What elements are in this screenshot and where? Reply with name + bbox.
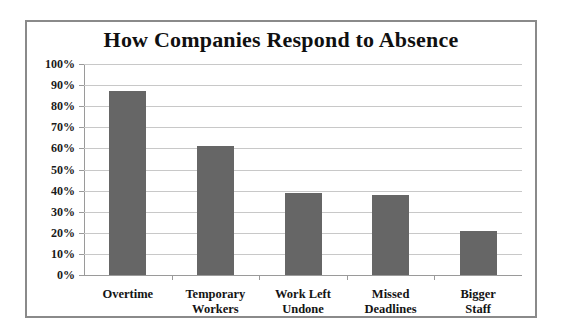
- y-tick-mark-100: [79, 64, 84, 65]
- bar-4[interactable]: [460, 231, 497, 275]
- y-tick-mark-80: [79, 106, 84, 107]
- plot-area: 100%90%80%70%60%50%40%30%20%10%0% Overti…: [84, 64, 522, 275]
- y-tick-label-30: 30%: [51, 204, 75, 219]
- y-tick-label-40: 40%: [51, 183, 75, 198]
- gridline-0: [84, 275, 522, 276]
- y-tick-label-90: 90%: [51, 78, 75, 93]
- gridline-90: [84, 85, 522, 86]
- y-tick-mark-40: [79, 191, 84, 192]
- bar-3[interactable]: [372, 195, 409, 275]
- x-tick-label-0: Overtime: [102, 287, 153, 302]
- x-tick-mark-4: [434, 275, 435, 280]
- y-tick-mark-60: [79, 148, 84, 149]
- x-tick-mark-2: [259, 275, 260, 280]
- gridline-70: [84, 127, 522, 128]
- y-tick-label-80: 80%: [51, 99, 75, 114]
- y-tick-mark-70: [79, 127, 84, 128]
- y-tick-label-100: 100%: [45, 57, 75, 72]
- y-tick-mark-0: [79, 275, 84, 276]
- bar-2[interactable]: [285, 193, 322, 275]
- y-tick-label-60: 60%: [51, 141, 75, 156]
- y-tick-mark-90: [79, 85, 84, 86]
- x-tick-mark-1: [172, 275, 173, 280]
- gridline-60: [84, 148, 522, 149]
- y-tick-label-70: 70%: [51, 120, 75, 135]
- x-tick-label-3: Missed Deadlines: [365, 287, 417, 317]
- gridline-40: [84, 191, 522, 192]
- y-tick-label-50: 50%: [51, 162, 75, 177]
- y-tick-mark-50: [79, 170, 84, 171]
- y-tick-mark-10: [79, 254, 84, 255]
- gridline-80: [84, 106, 522, 107]
- x-tick-label-1: Temporary Workers: [185, 287, 245, 317]
- bar-1[interactable]: [197, 146, 234, 275]
- chart-title: How Companies Respond to Absence: [27, 27, 535, 53]
- y-tick-label-20: 20%: [51, 225, 75, 240]
- x-tick-mark-3: [347, 275, 348, 280]
- x-tick-label-2: Work Left Undone: [275, 287, 331, 317]
- y-tick-mark-30: [79, 212, 84, 213]
- y-tick-label-0: 0%: [57, 268, 75, 283]
- gridline-50: [84, 170, 522, 171]
- chart-frame: How Companies Respond to Absence 100%90%…: [25, 20, 537, 318]
- y-tick-label-10: 10%: [51, 246, 75, 261]
- gridline-100: [84, 64, 522, 65]
- y-tick-mark-20: [79, 233, 84, 234]
- x-tick-label-4: Bigger Staff: [456, 287, 500, 317]
- bar-0[interactable]: [109, 91, 146, 275]
